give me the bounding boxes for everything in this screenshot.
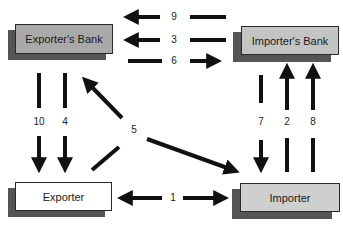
step-label-1: 1 bbox=[166, 192, 180, 204]
step-label-3: 3 bbox=[167, 34, 181, 46]
trade-finance-diagram: Exporter's Bank Importer's Bank Exporter… bbox=[0, 0, 343, 225]
step-label-4: 4 bbox=[58, 116, 72, 128]
arrow-5-to-exporters-bank-tail bbox=[92, 147, 119, 170]
step-label-9: 9 bbox=[167, 11, 181, 23]
arrow-5-to-exporters-bank-head bbox=[87, 82, 122, 118]
exporters-bank-box: Exporter's Bank bbox=[15, 24, 113, 54]
importer-node: Importer bbox=[232, 183, 340, 219]
importers-bank-box: Importer's Bank bbox=[241, 26, 339, 55]
importer-label: Importer bbox=[270, 192, 311, 204]
step-label-6: 6 bbox=[167, 55, 181, 67]
exporter-node: Exporter bbox=[8, 182, 113, 218]
exporters-bank-label: Exporter's Bank bbox=[25, 33, 102, 45]
step-label-8: 8 bbox=[306, 116, 320, 128]
arrow-5-to-importer bbox=[147, 139, 233, 170]
importer-box: Importer bbox=[240, 183, 340, 212]
step-label-5: 5 bbox=[127, 124, 141, 136]
step-label-10: 10 bbox=[30, 116, 48, 128]
step-label-2: 2 bbox=[280, 116, 294, 128]
exporters-bank-node: Exporter's Bank bbox=[8, 24, 113, 60]
exporter-box: Exporter bbox=[15, 182, 112, 211]
step-label-7: 7 bbox=[254, 116, 268, 128]
importers-bank-label: Importer's Bank bbox=[252, 35, 329, 47]
exporter-label: Exporter bbox=[43, 191, 85, 203]
importers-bank-node: Importer's Bank bbox=[233, 26, 339, 62]
